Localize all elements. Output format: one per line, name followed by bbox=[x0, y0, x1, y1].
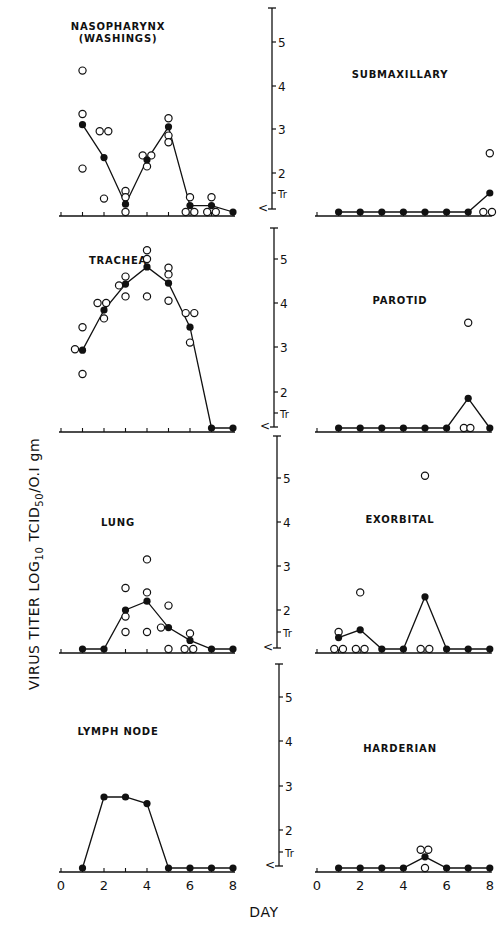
y-tick-label: 4 bbox=[283, 516, 291, 530]
individual-titer-point bbox=[143, 247, 150, 254]
x-tick-label: 8 bbox=[229, 878, 237, 893]
figure: NASOPHARYNX(WASHINGS)SUBMAXILLARYTRACHEA… bbox=[0, 0, 503, 928]
individual-titer-point bbox=[208, 194, 215, 201]
individual-titer-point bbox=[357, 589, 364, 596]
shared-y-axes: 5432Tr<5432Tr<5432Tr<5432Tr< bbox=[258, 8, 295, 872]
mean-titer-point bbox=[465, 395, 472, 402]
panel-parotid: PAROTID bbox=[315, 295, 493, 432]
individual-titer-point bbox=[122, 194, 129, 201]
mean-titer-point bbox=[122, 606, 129, 613]
panel-title: EXORBITAL bbox=[365, 514, 434, 525]
mean-titer-point bbox=[143, 263, 150, 270]
mean-titer-point bbox=[165, 123, 172, 130]
mean-titer-line bbox=[83, 267, 234, 428]
individual-titer-point bbox=[143, 589, 150, 596]
mean-titer-point bbox=[165, 864, 172, 871]
individual-titer-point bbox=[79, 110, 86, 117]
mean-titer-point bbox=[229, 208, 236, 215]
x-tick-label: 6 bbox=[442, 878, 450, 893]
individual-titer-point bbox=[122, 273, 129, 280]
mean-titer-point bbox=[357, 864, 364, 871]
individual-titer-point bbox=[94, 299, 101, 306]
individual-titer-point bbox=[165, 602, 172, 609]
x-tick-label: 8 bbox=[486, 878, 494, 893]
mean-titer-point bbox=[421, 853, 428, 860]
mean-titer-point bbox=[208, 864, 215, 871]
individual-titer-point bbox=[352, 645, 359, 652]
y-axis-row-2: 5432Tr< bbox=[260, 228, 290, 433]
mean-titer-point bbox=[443, 424, 450, 431]
individual-titer-point bbox=[182, 208, 189, 215]
individual-titer-point bbox=[122, 293, 129, 300]
individual-titer-point bbox=[143, 556, 150, 563]
y-tick-label: Tr bbox=[279, 409, 290, 420]
mean-titer-point bbox=[79, 121, 86, 128]
y-tick-label: Tr bbox=[282, 628, 293, 639]
y-tick-label-below-detection: < bbox=[265, 858, 275, 872]
y-tick-label: 3 bbox=[280, 341, 288, 355]
mean-titer-point bbox=[486, 189, 493, 196]
mean-titer-point bbox=[186, 202, 193, 209]
mean-titer-point bbox=[229, 864, 236, 871]
mean-titer-point bbox=[100, 793, 107, 800]
individual-titer-point bbox=[488, 208, 495, 215]
mean-titer-point bbox=[421, 593, 428, 600]
y-tick-label-below-detection: < bbox=[258, 201, 268, 215]
x-tick-label: 0 bbox=[57, 878, 65, 893]
mean-titer-point bbox=[165, 624, 172, 631]
mean-titer-point bbox=[378, 424, 385, 431]
mean-titer-line bbox=[339, 597, 490, 649]
mean-titer-point bbox=[122, 201, 129, 208]
individual-titer-point bbox=[417, 846, 424, 853]
mean-titer-point bbox=[143, 598, 150, 605]
individual-titer-point bbox=[165, 645, 172, 652]
x-tick-label: 0 bbox=[313, 878, 321, 893]
mean-titer-point bbox=[465, 645, 472, 652]
individual-titer-point bbox=[143, 628, 150, 635]
mean-titer-point bbox=[335, 864, 342, 871]
mean-titer-point bbox=[400, 645, 407, 652]
individual-titer-point bbox=[467, 424, 474, 431]
individual-titer-point bbox=[100, 195, 107, 202]
mean-titer-point bbox=[229, 645, 236, 652]
individual-titer-point bbox=[157, 624, 164, 631]
panel-title: PAROTID bbox=[373, 295, 428, 306]
mean-titer-point bbox=[465, 208, 472, 215]
individual-titer-point bbox=[186, 194, 193, 201]
individual-titer-point bbox=[122, 613, 129, 620]
mean-titer-point bbox=[79, 645, 86, 652]
mean-titer-point bbox=[100, 154, 107, 161]
individual-titer-point bbox=[103, 299, 110, 306]
individual-titer-point bbox=[143, 163, 150, 170]
mean-titer-point bbox=[443, 208, 450, 215]
panel-title: HARDERIAN bbox=[363, 743, 437, 754]
mean-titer-point bbox=[335, 208, 342, 215]
x-tick-label: 6 bbox=[186, 878, 194, 893]
x-axis-title: DAY bbox=[249, 904, 278, 920]
mean-titer-point bbox=[486, 645, 493, 652]
panel-lymph-node: LYMPH NODE02468 bbox=[57, 726, 237, 893]
y-tick-label: 3 bbox=[278, 123, 286, 137]
panel-title: NASOPHARYNX bbox=[71, 21, 166, 32]
y-tick-label: 5 bbox=[283, 472, 291, 486]
y-tick-label: Tr bbox=[284, 848, 295, 859]
individual-titer-point bbox=[122, 208, 129, 215]
y-tick-label: 5 bbox=[280, 253, 288, 267]
individual-titer-point bbox=[100, 315, 107, 322]
individual-titer-point bbox=[122, 584, 129, 591]
mean-titer-line bbox=[83, 797, 234, 868]
individual-titer-point bbox=[79, 165, 86, 172]
y-tick-label: 5 bbox=[285, 691, 293, 705]
individual-titer-point bbox=[79, 324, 86, 331]
y-tick-label: 2 bbox=[285, 824, 293, 838]
panel-harderian: HARDERIAN02468 bbox=[313, 743, 494, 893]
panel-trachea: TRACHEA bbox=[59, 247, 237, 432]
mean-titer-point bbox=[186, 637, 193, 644]
individual-titer-point bbox=[190, 645, 197, 652]
individual-titer-point bbox=[143, 255, 150, 262]
individual-titer-point bbox=[165, 297, 172, 304]
mean-titer-point bbox=[443, 864, 450, 871]
mean-titer-point bbox=[208, 202, 215, 209]
mean-titer-point bbox=[79, 347, 86, 354]
y-axis-row-4: 5432Tr< bbox=[265, 664, 295, 872]
